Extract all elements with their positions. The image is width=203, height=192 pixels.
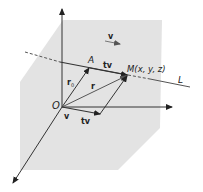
line-in-space-diagram: v A tv M(x, y, z) L r0 r O v tv (0, 0, 203, 192)
label-v-top: v (108, 32, 114, 41)
label-r: r (91, 82, 95, 91)
label-tv-upper: tv (103, 61, 113, 70)
label-L: L (178, 75, 183, 85)
label-tv-lower: tv (81, 117, 91, 126)
label-v-lower: v (64, 112, 70, 121)
label-O: O (52, 100, 60, 111)
plane (20, 20, 162, 170)
label-M: M(x, y, z) (127, 64, 166, 74)
label-A: A (87, 55, 94, 65)
